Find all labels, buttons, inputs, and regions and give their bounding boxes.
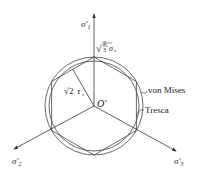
- sigma2-label: σ'2: [12, 156, 21, 167]
- apothem-label: √2 τ s: [64, 86, 84, 97]
- sigma2-axis: [14, 106, 94, 149]
- tresca-label: Tresca: [145, 105, 169, 115]
- svg-text:3: 3: [103, 47, 106, 53]
- von-mises-label: von Mises: [148, 85, 186, 95]
- svg-text:2: 2: [103, 40, 106, 46]
- svg-text:τ: τ: [77, 86, 81, 96]
- svg-text:s: s: [82, 92, 84, 97]
- origin-label: O': [97, 98, 107, 109]
- svg-text:s: s: [114, 48, 116, 53]
- yield-locus-diagram: σ'1 σ'2 σ'3 √ 2 3 σ s √2 τ s O' von Mise…: [0, 0, 207, 172]
- sigma1-label: σ'1: [81, 19, 90, 30]
- von-mises-leader: [141, 91, 147, 93]
- radius-label: √ 2 3 σ s: [96, 40, 116, 54]
- svg-text:√: √: [96, 43, 102, 54]
- sigma3-label: σ'3: [174, 156, 183, 167]
- apothem-line: [73, 69, 94, 106]
- svg-text:√2: √2: [64, 86, 73, 96]
